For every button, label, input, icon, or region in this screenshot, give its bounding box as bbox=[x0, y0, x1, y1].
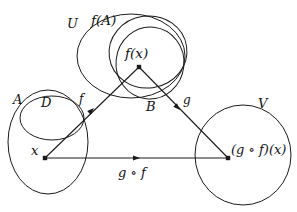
label-set-U: U bbox=[67, 17, 78, 30]
label-arrow-gof: g ∘ f bbox=[118, 166, 146, 179]
label-set-B: B bbox=[146, 100, 156, 113]
label-set-fA: f(A) bbox=[91, 14, 116, 28]
set-D-outline bbox=[20, 96, 84, 140]
point-gfx-dot bbox=[226, 156, 230, 160]
label-set-V: V bbox=[258, 97, 267, 110]
point-x-dot bbox=[43, 156, 47, 160]
label-set-A: A bbox=[13, 93, 22, 106]
label-point-gfx: (g ∘ f)(x) bbox=[231, 143, 286, 156]
arrow-g-head bbox=[173, 103, 182, 112]
arrow-f-line bbox=[45, 67, 139, 158]
set-B-outline bbox=[112, 24, 187, 103]
function-composition-figure: A D U f(A) B V x f(x) (g ∘ f)(x) f g g ∘… bbox=[0, 0, 297, 212]
label-arrow-g: g bbox=[183, 94, 191, 106]
label-point-fx: f(x) bbox=[125, 47, 148, 61]
point-fx-dot bbox=[137, 65, 141, 69]
label-set-D: D bbox=[41, 96, 51, 109]
arrow-gof-head bbox=[133, 155, 140, 160]
label-arrow-f: f bbox=[79, 93, 83, 105]
label-point-x: x bbox=[31, 144, 38, 157]
